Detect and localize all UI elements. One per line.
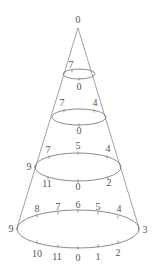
clock-label: 11 xyxy=(42,178,52,189)
clock-label: 7 xyxy=(69,59,74,70)
clock-label: 7 xyxy=(46,144,51,155)
clock-label: 10 xyxy=(32,248,42,259)
clock-ticks xyxy=(17,70,139,250)
clock-label: 0 xyxy=(77,81,82,92)
clock-label: 0 xyxy=(77,125,82,136)
clock-label: 2 xyxy=(107,177,112,188)
clock-label: 8 xyxy=(35,203,40,214)
clock-label: 5 xyxy=(96,201,101,212)
clock-label: 0 xyxy=(76,252,81,263)
cone-left-edge xyxy=(17,28,78,228)
clock-label: 11 xyxy=(52,251,62,262)
apex-label: 0 xyxy=(76,14,81,25)
clock-label: 4 xyxy=(106,143,111,154)
ellipse-level-4 xyxy=(17,210,139,248)
clock-label: 3 xyxy=(143,224,148,235)
ellipse-level-2 xyxy=(52,109,106,125)
clock-label: 2 xyxy=(116,247,121,258)
clock-label: 6 xyxy=(76,199,81,210)
clock-label: 7 xyxy=(56,201,61,212)
cone-right-edge xyxy=(78,28,139,228)
clock-label: 9 xyxy=(27,161,32,172)
clock-label: 5 xyxy=(76,140,81,151)
clock-label: 0 xyxy=(76,181,81,192)
clock-label: 9 xyxy=(9,223,14,234)
clock-label: 4 xyxy=(93,97,98,108)
clock-labels: 707407549110287654931011012 xyxy=(9,59,148,263)
cone-diagram: 707407549110287654931011012 0 xyxy=(0,0,153,272)
cone-ellipses xyxy=(17,69,139,248)
clock-label: 4 xyxy=(117,203,122,214)
clock-label: 1 xyxy=(96,251,101,262)
clock-label: 7 xyxy=(60,97,65,108)
